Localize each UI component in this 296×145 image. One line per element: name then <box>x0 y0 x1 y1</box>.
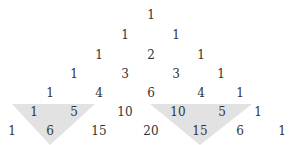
cell-r1-c0: 1 <box>121 29 129 41</box>
cell-r2-c1: 2 <box>147 49 155 61</box>
pascal-triangle-diagram: 111121133114641151010511615201561 <box>0 0 296 145</box>
cell-r3-c3: 1 <box>217 68 225 80</box>
cell-r6-c2: 15 <box>91 125 106 137</box>
cell-r4-c1: 4 <box>95 87 103 99</box>
cell-r6-c1: 6 <box>46 125 54 137</box>
cell-r6-c3: 20 <box>143 125 158 137</box>
cell-r4-c3: 4 <box>197 87 205 99</box>
cell-r5-c1: 5 <box>70 106 78 118</box>
cell-r6-c6: 1 <box>278 125 286 137</box>
cell-r2-c2: 1 <box>197 49 205 61</box>
cell-r4-c2: 6 <box>147 87 155 99</box>
cell-r0-c0: 1 <box>147 9 155 21</box>
cell-r6-c0: 1 <box>8 125 16 137</box>
cell-r5-c4: 5 <box>218 106 226 118</box>
cell-r5-c5: 1 <box>254 106 262 118</box>
cell-r5-c2: 10 <box>117 106 132 118</box>
cell-r3-c2: 3 <box>172 68 180 80</box>
cell-r2-c0: 1 <box>95 49 103 61</box>
cell-r6-c4: 15 <box>192 125 207 137</box>
cell-r5-c0: 1 <box>30 106 38 118</box>
cell-r1-c1: 1 <box>172 29 180 41</box>
cell-r4-c0: 1 <box>46 87 54 99</box>
cell-r6-c5: 6 <box>236 125 244 137</box>
cell-r4-c4: 1 <box>236 87 244 99</box>
cell-r3-c0: 1 <box>70 68 78 80</box>
cell-r3-c1: 3 <box>121 68 129 80</box>
cell-r5-c3: 10 <box>170 106 185 118</box>
